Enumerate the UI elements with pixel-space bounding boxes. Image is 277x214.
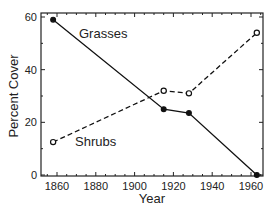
shrubs-point [51,139,56,144]
x-tick-label: 1960 [239,180,263,192]
grasses-point [51,17,56,22]
y-tick-label: 60 [25,11,37,23]
x-tick-label: 1940 [200,180,224,192]
shrubs-line [53,33,257,142]
shrubs-label: Shrubs [75,134,117,149]
grasses-point [187,111,192,116]
grasses-point [254,173,259,178]
y-tick-label: 0 [31,169,37,181]
y-axis-title: Percent Cover [6,54,21,138]
shrubs-point [186,91,191,96]
grasses-line [53,20,257,175]
plot-area: 1860188019001920194019600204060 [25,11,263,192]
shrubs-point [161,88,166,93]
x-axis-title: Year [139,191,166,206]
shrubs-point [254,30,259,35]
grasses-point [161,107,166,112]
x-tick-label: 1880 [84,180,108,192]
line-chart: 1860188019001920194019600204060 Grasses … [0,0,277,214]
y-tick-label: 40 [25,64,37,76]
series-group [51,17,260,177]
y-tick-label: 20 [25,116,37,128]
grasses-label: Grasses [79,26,128,41]
x-tick-label: 1860 [45,180,69,192]
